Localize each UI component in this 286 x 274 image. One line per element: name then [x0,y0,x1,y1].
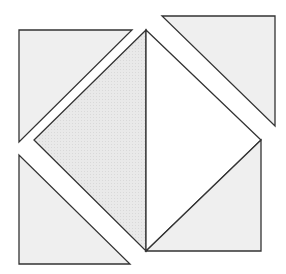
tangram-diagram [0,0,286,274]
diagram-canvas [0,0,286,274]
